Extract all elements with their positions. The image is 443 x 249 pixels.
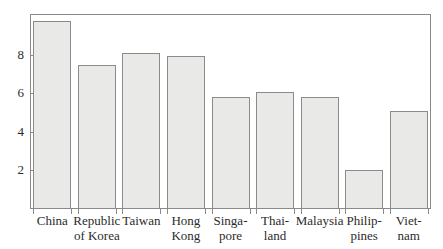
y-axis-tick-label: 8 (0, 48, 24, 61)
y-axis-tick-label: 2 (0, 163, 24, 176)
bar (33, 21, 71, 209)
bar (345, 170, 383, 209)
y-axis-tick-label-text: 6 (2, 86, 24, 99)
bar (167, 56, 205, 209)
y-axis-tick-label: 6 (0, 86, 24, 99)
y-axis-tick-label-text: 2 (2, 163, 24, 176)
y-axis-tick-label-text: 4 (2, 125, 24, 138)
y-axis-tick-label: 4 (0, 125, 24, 138)
bar (390, 111, 428, 209)
bar (78, 65, 116, 209)
bar (122, 53, 160, 209)
bar-chart: 2468 ChinaRepublic of KoreaTaiwanHong Ko… (0, 0, 443, 249)
bar (212, 97, 250, 209)
bar (256, 92, 294, 209)
bar (301, 97, 339, 209)
y-axis-tick-label-text: 8 (2, 48, 24, 61)
x-axis-category-label: Viet- nam (382, 213, 435, 243)
